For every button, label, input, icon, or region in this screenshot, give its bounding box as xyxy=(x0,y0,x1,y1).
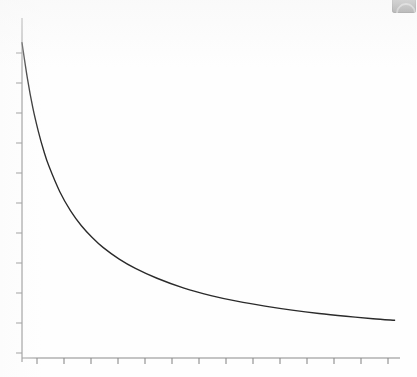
chart-figure xyxy=(0,0,417,377)
plot-canvas xyxy=(0,0,417,377)
corner-widget-artifact xyxy=(392,0,416,13)
tick-marks-group xyxy=(16,53,388,364)
decay-curve-decay xyxy=(22,43,395,321)
axes-group xyxy=(22,18,400,362)
artifact-shading xyxy=(392,0,416,13)
decay-curve-group xyxy=(22,43,395,321)
